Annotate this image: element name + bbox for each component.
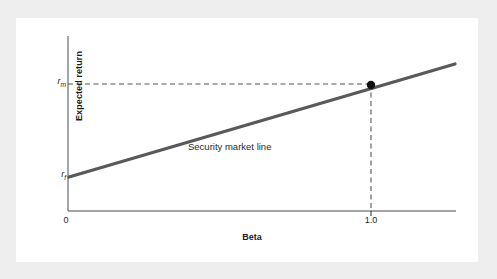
y-label-market-return: rm bbox=[48, 76, 66, 88]
security-market-line bbox=[69, 64, 455, 177]
chart-card: Expected return Beta 0 1.0 rm rf Securit… bbox=[16, 18, 478, 262]
rm-subscript: m bbox=[61, 81, 66, 88]
market-portfolio-point bbox=[367, 81, 375, 89]
y-label-risk-free-rate: rf bbox=[48, 169, 66, 181]
plot-area: Expected return Beta 0 1.0 rm rf Securit… bbox=[16, 18, 478, 262]
figure-root: Expected return Beta 0 1.0 rm rf Securit… bbox=[0, 0, 497, 279]
security-market-line-annotation: Security market line bbox=[188, 141, 271, 152]
x-tick-label-one: 1.0 bbox=[356, 215, 386, 225]
rf-subscript: f bbox=[64, 174, 66, 181]
x-axis-title: Beta bbox=[202, 232, 302, 242]
x-tick-label-zero: 0 bbox=[59, 215, 73, 225]
y-axis-title: Expected return bbox=[71, 36, 87, 136]
